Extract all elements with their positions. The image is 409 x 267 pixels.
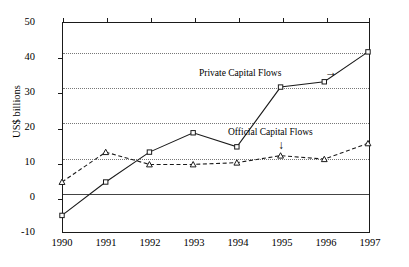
- x-tick-label-1995: 1995: [260, 237, 304, 248]
- data-series-layer: [62, 22, 370, 233]
- series-markers-official-capital-flows: [59, 140, 371, 184]
- x-tick-label-1997: 1997: [348, 237, 392, 248]
- annotation-arrow-right-icon: →: [325, 67, 337, 78]
- y-tick-label-0: 0: [1, 192, 35, 202]
- x-tick-label-1991: 1991: [84, 237, 128, 248]
- x-tick-label-1992: 1992: [128, 237, 172, 248]
- annotation-official-capital-flows: Official Capital Flows: [228, 127, 313, 138]
- series-line-official-capital-flows: [62, 143, 368, 182]
- x-tick-label-1994: 1994: [216, 237, 260, 248]
- y-tick-label-10: 10: [1, 157, 35, 167]
- annotation-private-capital-flows: Private Capital Flows: [199, 68, 281, 79]
- line-chart: US$ billions 50 40 30 20 10 0 -10 1990 1…: [0, 0, 409, 267]
- y-tick-label-40: 40: [1, 52, 35, 62]
- x-tick-label-1990: 1990: [40, 237, 84, 248]
- y-axis-title: US$ billions: [11, 52, 22, 172]
- y-tick-label-30: 30: [1, 87, 35, 97]
- y-tick-label-neg10: -10: [1, 227, 35, 237]
- y-tick-label-20: 20: [1, 122, 35, 132]
- annotation-arrow-down-icon: ↓: [278, 140, 284, 151]
- x-tick-label-1993: 1993: [172, 237, 216, 248]
- y-tick-label-50: 50: [1, 17, 35, 27]
- x-tick-label-1996: 1996: [304, 237, 348, 248]
